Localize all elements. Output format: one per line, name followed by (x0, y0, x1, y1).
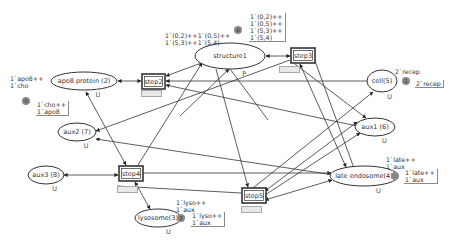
token-count-badge-apo8: 8 (22, 97, 30, 105)
token-count-badge-lysosome: 2 (177, 214, 185, 222)
place-name-structure1: structure1 (195, 52, 265, 60)
token-count-badge-structure1: 8 (234, 26, 242, 34)
current-marking-lysosome: 1`lyso++ 1`aux (191, 212, 225, 227)
initial-marking-late_endosome: 1`late++ 1`aux (386, 156, 416, 170)
arc[interactable] (315, 61, 355, 171)
transition-tag-step5 (241, 206, 262, 213)
transition-tag-step4 (117, 186, 138, 193)
arc[interactable] (230, 69, 268, 120)
place-type-late_endosome: U (376, 187, 381, 195)
current-marking-cell: 2`recep (415, 80, 444, 88)
current-marking-apo8: 1`cho++ 1`apo8 (36, 101, 69, 116)
initial-marking-cell: 2`recep (395, 68, 420, 75)
transition-name-step5: step5 (242, 192, 266, 200)
current-marking-structure1: 1`(0,2)++ 1`(0,5)++ 1`(5,3)++ 1`(5,4) (249, 13, 286, 42)
transition-name-step3: step3 (291, 52, 315, 60)
transition-tag-step2 (141, 90, 162, 97)
place-type-apo8: U (96, 91, 101, 99)
token-count-badge-late_endosome (391, 172, 399, 180)
place-name-cell: cell(5) (367, 77, 397, 85)
place-type-aux2: U (84, 142, 89, 150)
place-type-aux1: U (382, 137, 387, 145)
arc[interactable] (96, 60, 290, 131)
place-name-lysosome: lysosome(3) (135, 214, 181, 222)
place-name-late_endosome: late endosome(4) (330, 172, 398, 180)
transition-name-step2: step2 (142, 78, 165, 86)
arc[interactable] (166, 85, 357, 126)
place-name-apo8: apo8 protein (2) (51, 77, 117, 85)
place-name-aux1: aux1 (6) (355, 123, 395, 131)
initial-marking-structure1: 1`(0,2)++1`(0,5)++ 1`(5,3)++1`(5,4) (165, 32, 230, 46)
transition-name-step4: step4 (119, 170, 143, 178)
place-type-structure1: P (242, 70, 246, 78)
transition-tag-step3 (279, 66, 300, 73)
place-type-lysosome: U (166, 228, 171, 236)
initial-marking-apo8: 1`apo8++ 1`cho (10, 75, 43, 89)
place-name-aux3: aux3 (8) (28, 171, 64, 179)
initial-marking-lysosome: 1`lyso++ 1`aux (176, 199, 206, 213)
place-type-aux3: U (52, 185, 57, 193)
current-marking-late_endosome: 1`late++ 1`aux (404, 169, 438, 184)
arc[interactable] (295, 64, 366, 118)
token-count-badge-cell: 2 (402, 77, 410, 85)
place-name-aux2: aux2 (7) (58, 128, 96, 136)
arc[interactable] (180, 69, 229, 116)
place-type-cell: U (387, 93, 392, 101)
